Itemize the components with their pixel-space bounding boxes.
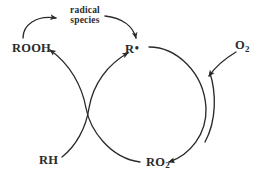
peroxyl-radical-dot-icon: • bbox=[170, 154, 175, 168]
species-label-substrate: RH bbox=[39, 154, 58, 167]
arrow-ro2-to-rooh bbox=[50, 50, 140, 162]
annotation-radical-species: radical species bbox=[58, 6, 112, 25]
arrow-o2-into-cycle bbox=[209, 52, 236, 76]
species-label-oxygen: O2 bbox=[235, 39, 250, 54]
carbon-radical-dot-icon: • bbox=[134, 41, 139, 55]
species-label-carbon-radical: R• bbox=[125, 42, 139, 55]
oxygen-subscript: 2 bbox=[245, 44, 250, 54]
reaction-cycle-diagram: ROOH R• O2 RO2• RH radical species bbox=[0, 0, 265, 184]
arrow-rooh-to-radical-species bbox=[23, 17, 56, 38]
peroxyl-text: RO bbox=[146, 155, 165, 169]
arrow-rh-to-r-radical bbox=[62, 53, 128, 157]
arrow-r-radical-to-ro2 bbox=[149, 47, 206, 162]
annotation-line-2: species bbox=[58, 16, 112, 26]
species-label-rooh: ROOH bbox=[12, 42, 51, 55]
carbon-radical-text: R bbox=[125, 42, 134, 56]
species-label-peroxyl-radical: RO2• bbox=[146, 155, 175, 170]
oxygen-text: O bbox=[235, 38, 245, 52]
